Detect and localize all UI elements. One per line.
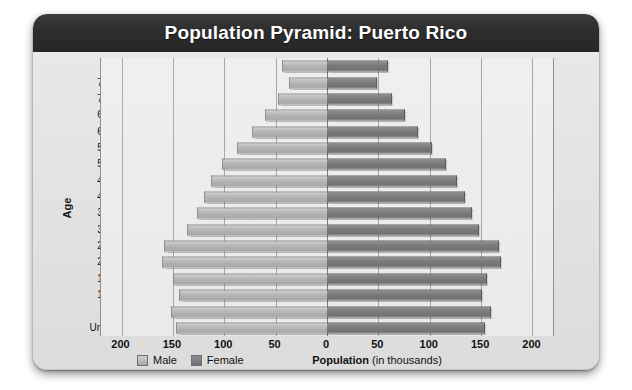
bar-male-15: [171, 306, 328, 317]
bar-row: [101, 238, 553, 254]
bar-female-12: [327, 257, 501, 268]
x-axis-tick-7: 150: [471, 338, 489, 350]
bar-male-5: [237, 142, 328, 153]
bar-female-7: [327, 175, 457, 186]
bar-female-6: [327, 159, 446, 170]
bar-row: [101, 123, 553, 139]
bar-male-7: [211, 175, 328, 186]
bar-male-4: [252, 126, 328, 137]
bar-male-16: [176, 322, 328, 333]
bar-row: [101, 271, 553, 287]
bar-female-4: [327, 126, 418, 137]
bar-female-5: [327, 142, 432, 153]
bar-female-15: [327, 306, 491, 317]
bar-male-1: [289, 77, 328, 88]
bar-row: [101, 173, 553, 189]
bar-row: [101, 140, 553, 156]
bar-female-9: [327, 208, 472, 219]
bar-female-1: [327, 77, 377, 88]
bar-row: [101, 303, 553, 319]
x-axis-title: Population (in thousands): [67, 354, 567, 366]
bar-female-11: [327, 241, 499, 252]
x-axis-title-rest: (in thousands): [369, 354, 442, 366]
bar-female-2: [327, 93, 392, 104]
bar-male-0: [282, 61, 328, 72]
bar-male-2: [278, 93, 328, 104]
x-axis-tick-0: 200: [111, 338, 129, 350]
x-axis-tick-labels: 20015010050050100150200: [67, 336, 567, 354]
page-title: Population Pyramid: Puerto Rico: [165, 22, 468, 44]
chart-footer: Male Female Population (in thousands): [67, 354, 567, 370]
bar-female-13: [327, 273, 487, 284]
bar-row: [101, 107, 553, 123]
bar-female-14: [327, 290, 482, 301]
bar-row: [101, 287, 553, 303]
x-axis-tick-4: 0: [323, 338, 329, 350]
bar-male-14: [179, 290, 328, 301]
chart-body: Age 80+75–7970–7465–6960–6455–5950–5445–…: [33, 52, 599, 370]
chart-title-bar: Population Pyramid: Puerto Rico: [33, 14, 599, 52]
x-axis-tick-1: 150: [163, 338, 181, 350]
bar-row: [101, 222, 553, 238]
bar-male-9: [197, 208, 328, 219]
bar-male-11: [164, 241, 328, 252]
bar-male-10: [187, 224, 328, 235]
bar-male-12: [162, 257, 328, 268]
bar-row: [101, 205, 553, 221]
bar-row: [101, 74, 553, 90]
bar-row: [101, 58, 553, 74]
bar-row: [101, 91, 553, 107]
x-axis-tick-2: 100: [214, 338, 232, 350]
bar-row: [101, 189, 553, 205]
bar-rows: [101, 58, 553, 336]
chart-card: Population Pyramid: Puerto Rico Age 80+7…: [33, 14, 599, 370]
bar-male-8: [204, 192, 328, 203]
bar-row: [101, 156, 553, 172]
bar-male-3: [265, 110, 328, 121]
x-axis-tick-3: 50: [269, 338, 281, 350]
screenshot-root: Population Pyramid: Puerto Rico Age 80+7…: [0, 0, 632, 390]
bar-female-10: [327, 224, 479, 235]
bar-male-6: [222, 159, 328, 170]
bar-row: [101, 320, 553, 336]
bar-female-8: [327, 192, 465, 203]
bar-female-3: [327, 110, 405, 121]
x-axis-tick-6: 100: [420, 338, 438, 350]
x-axis-tick-8: 200: [522, 338, 540, 350]
bar-row: [101, 254, 553, 270]
plot-area: [100, 58, 554, 336]
bar-female-0: [327, 61, 388, 72]
x-axis-title-strong: Population: [312, 354, 369, 366]
bar-female-16: [327, 322, 485, 333]
x-axis-tick-5: 50: [371, 338, 383, 350]
bar-male-13: [173, 273, 328, 284]
